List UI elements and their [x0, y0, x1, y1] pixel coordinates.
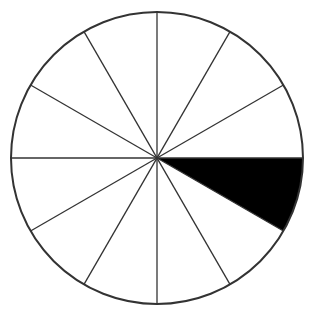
fraction-circle-diagram [0, 0, 311, 311]
shaded-slice [157, 158, 303, 231]
circle-slices [11, 12, 303, 304]
